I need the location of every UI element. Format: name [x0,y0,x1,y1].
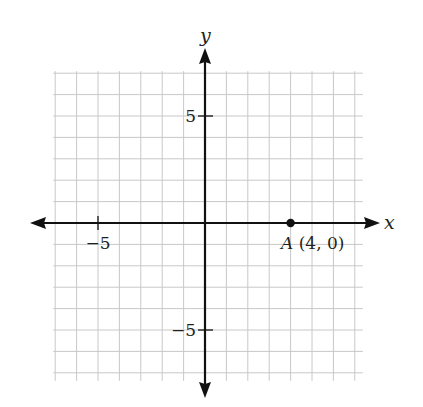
point-A-label: A (4, 0) [279,233,344,253]
x-tick-label-neg5: −5 [85,233,110,253]
point-A-name: A [279,233,293,253]
x-axis-left-arrow-icon [30,217,46,229]
y-axis-label: y [199,24,211,46]
point-A [286,219,294,227]
axes [30,48,380,398]
y-axis-down-arrow-icon [199,382,211,398]
x-axis-right-arrow-icon [364,217,380,229]
x-axis-label: x [384,211,395,233]
grid-lines [53,71,363,381]
y-tick-label-neg5: −5 [171,320,196,340]
y-tick-label-5: 5 [185,106,196,126]
coordinate-plane: x y −5 5 −5 A (4, 0) [0,0,423,407]
y-axis-up-arrow-icon [199,48,211,64]
point-A-coords: (4, 0) [293,233,344,253]
